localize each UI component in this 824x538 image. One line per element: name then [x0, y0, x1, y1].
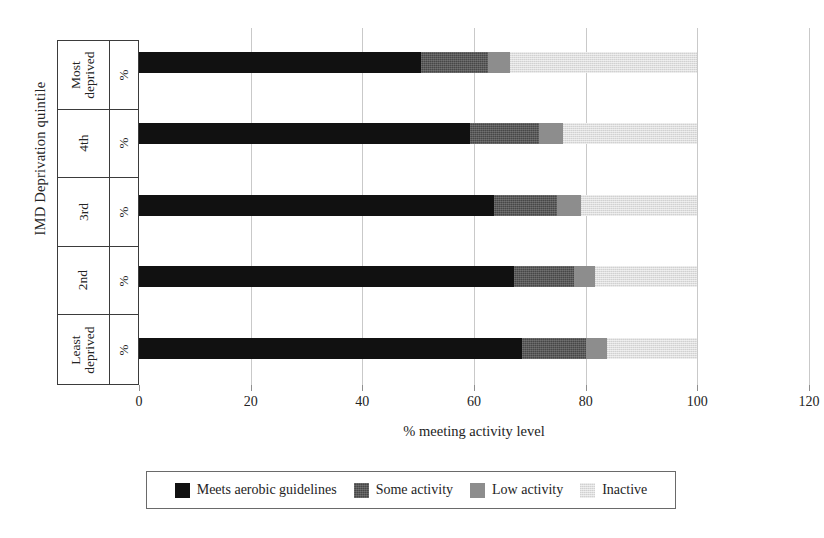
legend-swatch-icon	[470, 483, 485, 498]
y-axis-category-label: Least deprived	[58, 315, 110, 384]
y-axis-unit-cell: %	[110, 178, 138, 246]
y-axis-unit-text: %	[116, 69, 132, 80]
legend-label: Meets aerobic guidelines	[197, 482, 337, 498]
bar-segment[interactable]	[607, 338, 697, 359]
y-axis-unit-text: %	[116, 138, 132, 149]
y-axis-unit-text: %	[116, 275, 132, 286]
legend-item[interactable]: Low activity	[470, 482, 563, 498]
y-axis-category-text: 2nd	[76, 270, 90, 290]
stacked-bar[interactable]	[139, 123, 697, 144]
y-axis-unit-cell: %	[110, 110, 138, 178]
bar-row	[139, 28, 809, 99]
bar-segment[interactable]	[494, 195, 557, 216]
bar-segment[interactable]	[139, 52, 421, 73]
bar-segment[interactable]	[586, 338, 607, 359]
y-axis-category-label: 3rd	[58, 178, 110, 246]
y-axis-unit-text: %	[116, 207, 132, 218]
y-axis-category-label: Most deprived	[58, 41, 110, 109]
bar-segment[interactable]	[139, 338, 522, 359]
legend-swatch-icon	[354, 483, 369, 498]
y-axis-category-text: Least deprived	[69, 326, 97, 373]
x-axis-tick-label: 100	[667, 394, 727, 410]
stacked-bar[interactable]	[139, 338, 697, 359]
x-axis-tick-label: 0	[109, 394, 169, 410]
bar-segment[interactable]	[139, 195, 494, 216]
stacked-bar[interactable]	[139, 195, 697, 216]
x-axis-tick	[809, 385, 810, 391]
bar-row	[139, 99, 809, 170]
plot-area: 020406080100120	[139, 28, 809, 385]
x-axis-tick-label: 60	[444, 394, 504, 410]
bar-row	[139, 171, 809, 242]
y-axis-category-row: 4th%	[58, 110, 138, 179]
legend-item[interactable]: Inactive	[580, 482, 647, 498]
x-axis-tick	[362, 385, 363, 391]
y-axis-unit-cell: %	[110, 315, 138, 384]
x-gridline	[809, 28, 810, 385]
x-axis-tick-label: 120	[779, 394, 824, 410]
x-axis-tick	[474, 385, 475, 391]
x-axis-tick	[697, 385, 698, 391]
legend-label: Low activity	[492, 482, 563, 498]
legend-swatch-icon	[580, 483, 595, 498]
stacked-bar[interactable]	[139, 266, 697, 287]
legend-label: Some activity	[376, 482, 453, 498]
x-axis-tick	[586, 385, 587, 391]
chart-legend: Meets aerobic guidelinesSome activityLow…	[146, 471, 676, 509]
bar-row	[139, 242, 809, 313]
bar-segment[interactable]	[574, 266, 595, 287]
bar-segment[interactable]	[139, 266, 514, 287]
bar-segment[interactable]	[514, 266, 574, 287]
bar-segment[interactable]	[421, 52, 488, 73]
y-axis-category-text: 3rd	[76, 203, 90, 221]
bar-segment[interactable]	[557, 195, 580, 216]
bar-segment[interactable]	[539, 123, 562, 144]
x-axis-tick	[139, 385, 140, 391]
y-axis-category-text: 4th	[76, 135, 90, 152]
y-axis-title: IMD Deprivation quintile	[32, 9, 49, 309]
bar-segment[interactable]	[139, 123, 470, 144]
y-axis-category-label: 4th	[58, 110, 110, 178]
y-axis-category-row: 3rd%	[58, 178, 138, 247]
y-axis-category-table: Most deprived%4th%3rd%2nd%Least deprived…	[57, 40, 139, 385]
legend-swatch-icon	[175, 483, 190, 498]
y-axis-category-row: Least deprived%	[58, 315, 138, 384]
bar-segment[interactable]	[581, 195, 698, 216]
bar-segment[interactable]	[595, 266, 697, 287]
y-axis-category-row: Most deprived%	[58, 41, 138, 110]
x-axis-title: % meeting activity level	[139, 423, 809, 440]
y-axis-category-text: Most deprived	[69, 51, 97, 98]
legend-label: Inactive	[602, 482, 647, 498]
x-axis-tick-label: 80	[556, 394, 616, 410]
y-axis-unit-text: %	[116, 344, 132, 355]
x-axis-tick	[251, 385, 252, 391]
y-axis-category-row: 2nd%	[58, 247, 138, 316]
y-axis-category-label: 2nd	[58, 247, 110, 315]
y-axis-unit-cell: %	[110, 247, 138, 315]
bar-segment[interactable]	[470, 123, 539, 144]
x-axis-tick-label: 40	[332, 394, 392, 410]
stacked-bar[interactable]	[139, 52, 697, 73]
bar-row	[139, 314, 809, 385]
bar-segment[interactable]	[522, 338, 586, 359]
bar-segment[interactable]	[563, 123, 698, 144]
bar-segment[interactable]	[488, 52, 510, 73]
bar-segment[interactable]	[510, 52, 697, 73]
y-axis-unit-cell: %	[110, 41, 138, 109]
legend-item[interactable]: Some activity	[354, 482, 453, 498]
x-axis-tick-label: 20	[221, 394, 281, 410]
legend-item[interactable]: Meets aerobic guidelines	[175, 482, 337, 498]
